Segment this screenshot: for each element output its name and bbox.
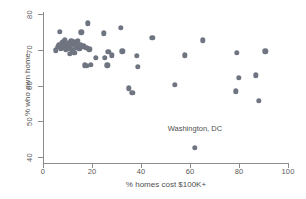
data-point [118, 25, 123, 30]
data-point [134, 53, 139, 58]
scatter-chart: 4050607080 020406080100 Washington, DC %… [0, 0, 306, 199]
data-point [150, 35, 155, 40]
data-point [93, 55, 98, 60]
data-point [101, 31, 106, 36]
data-point [253, 73, 258, 78]
data-point [102, 55, 107, 60]
data-point [129, 90, 134, 95]
data-point [233, 89, 238, 94]
y-axis-title: % who own home [23, 10, 32, 160]
data-point [182, 52, 187, 57]
data-point [79, 30, 84, 35]
data-point [57, 29, 62, 34]
data-point [172, 82, 177, 87]
data-point [256, 98, 261, 103]
data-point [120, 48, 125, 53]
annotation-label: Washington, DC [168, 124, 222, 133]
data-point [234, 50, 239, 55]
data-point [109, 52, 114, 57]
data-point [263, 48, 268, 53]
data-point [135, 64, 140, 69]
x-axis-title: % homes cost $100K+ [43, 180, 289, 189]
data-point [87, 47, 92, 52]
data-points-layer: Washington, DC [0, 0, 306, 199]
data-point [85, 21, 90, 26]
data-point [104, 62, 109, 67]
data-point [192, 145, 197, 150]
data-point [200, 38, 205, 43]
data-point [72, 50, 77, 55]
data-point [236, 75, 241, 80]
data-point [88, 62, 93, 67]
